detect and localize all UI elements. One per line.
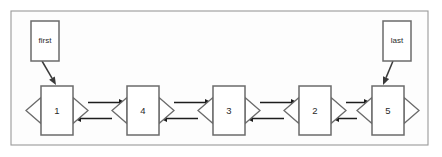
node-4-label: 4 bbox=[140, 105, 145, 116]
node-1[interactable]: 1 bbox=[41, 86, 73, 135]
diagram-canvas: 14325 firstlast bbox=[0, 0, 442, 157]
node-5[interactable]: 5 bbox=[372, 86, 404, 135]
linked-list-diagram: 14325 firstlast bbox=[0, 0, 442, 157]
node-4[interactable]: 4 bbox=[127, 86, 159, 135]
pointer-first-label: first bbox=[39, 36, 53, 45]
node-5-label: 5 bbox=[385, 105, 390, 116]
node-3[interactable]: 3 bbox=[213, 86, 245, 135]
node-1-label: 1 bbox=[54, 105, 59, 116]
node-2[interactable]: 2 bbox=[299, 86, 331, 135]
pointer-last-label: last bbox=[391, 36, 404, 45]
node-3-label: 3 bbox=[226, 105, 231, 116]
node-2-label: 2 bbox=[312, 105, 317, 116]
